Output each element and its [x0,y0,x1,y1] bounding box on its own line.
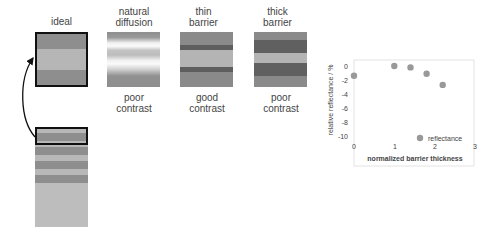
data-point [423,71,429,77]
thick-title-line1: thick [251,6,304,17]
thin-barrier-caption: good contrast [177,92,237,114]
data-point [440,82,446,88]
x-tick: 3 [473,143,477,150]
thick-caption-line1: poor [251,92,311,103]
y-tick: -4 [342,91,348,98]
y-tick: -6 [342,105,348,112]
thick-barrier-swatch [254,32,307,87]
x-tick: 0 [352,143,356,150]
thick-barrier-title: thick barrier [251,6,304,28]
y-axis-title: relative reflectance / % [327,65,334,136]
data-point [407,64,413,70]
thick-title-line2: barrier [251,17,304,28]
x-tick: 2 [433,143,437,150]
thin-caption-line2: contrast [177,103,237,114]
reflectance-chart: 0 -2 -4 -6 -8 -10 0 1 2 3 normalized bar… [320,50,500,200]
legend-marker-icon [417,135,423,141]
thin-title-line1: thin [177,6,230,17]
x-tick: 1 [393,143,397,150]
thick-barrier-caption: poor contrast [251,92,311,114]
legend-label: reflectance [428,135,462,142]
thin-caption-line1: good [177,92,237,103]
y-tick: -8 [342,119,348,126]
y-tick: 0 [344,63,348,70]
y-tick: -2 [342,77,348,84]
y-tick: -10 [338,133,348,140]
thin-barrier-title: thin barrier [177,6,230,28]
data-point [351,73,357,79]
x-axis-title: normalized barrier thickness [367,155,462,162]
thick-caption-line2: contrast [251,103,311,114]
thin-barrier-swatch [180,32,233,87]
data-point [391,63,397,69]
zoom-arrow-icon [0,0,120,235]
thin-title-line2: barrier [177,17,230,28]
scatter-plot: 0 -2 -4 -6 -8 -10 0 1 2 3 normalized bar… [320,50,500,200]
